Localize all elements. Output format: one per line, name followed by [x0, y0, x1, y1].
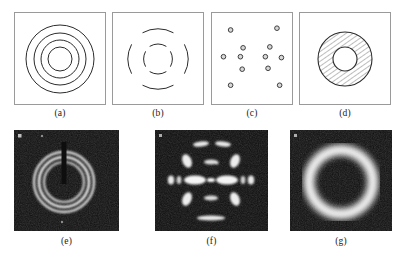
caption-g: (g): [290, 236, 392, 246]
film-speck: [61, 221, 63, 223]
beam-stop-shadow: [62, 142, 67, 184]
center-beam: [207, 178, 215, 182]
spot: [228, 83, 233, 88]
spot: [241, 45, 246, 50]
caption-a: (a): [14, 108, 106, 118]
faint-spot: [215, 161, 218, 164]
spot: [238, 54, 243, 59]
equatorial-streak-right: [216, 176, 238, 185]
panel-b: [112, 12, 204, 105]
mid-spot-right: [241, 176, 246, 184]
outer-spot-left: [168, 176, 174, 185]
caption-c: (c): [211, 108, 293, 118]
diffraction-figure: (a) (b): [0, 0, 405, 266]
panel-f-photograph: [155, 130, 268, 231]
debye-scherrer-photo: [14, 130, 119, 231]
arc-inner-west: [144, 52, 146, 67]
spot: [275, 26, 280, 31]
fiber-pattern-photo: [155, 130, 268, 231]
amorphous-halo-photo: [290, 130, 392, 231]
panel-e-photograph: [14, 130, 119, 231]
ring-outer-1: [26, 25, 94, 93]
caption-e: (e): [14, 236, 119, 246]
caption-f: (f): [155, 236, 268, 246]
corner-marker: [18, 134, 22, 138]
mid-spot-left: [177, 176, 182, 184]
arc-inner-south: [150, 72, 166, 74]
spot: [277, 83, 282, 88]
hatched-annulus-diagram: [299, 12, 391, 105]
panel-c: [211, 12, 293, 105]
outer-spot-right: [248, 176, 254, 185]
spot: [268, 45, 273, 50]
ring-2: [34, 33, 86, 85]
equatorial-streak-left: [184, 176, 206, 185]
panel-g-photograph: [290, 130, 392, 231]
spot: [240, 67, 245, 72]
panel-a: [14, 12, 106, 105]
ring-inner-4: [48, 47, 72, 71]
arc-outer-south: [143, 85, 173, 89]
annulus-hatch-fill: [299, 12, 391, 105]
caption-b: (b): [112, 108, 204, 118]
broken-arcs-diagram: [112, 12, 204, 105]
panel-d: [299, 12, 391, 105]
spot: [279, 55, 284, 60]
spot: [266, 66, 271, 71]
concentric-rings-diagram: [14, 12, 106, 105]
ring-3: [41, 40, 79, 78]
corner-marker: [159, 134, 162, 137]
caption-d: (d): [299, 108, 391, 118]
discrete-spots-diagram: [211, 12, 293, 105]
spot: [228, 28, 233, 33]
arc-inner-north: [150, 44, 166, 46]
spot: [263, 54, 268, 59]
layer-arc-lower-center: [204, 195, 218, 200]
spot: [221, 54, 226, 59]
film-speck: [41, 135, 43, 137]
arc-inner-east: [171, 52, 173, 67]
corner-marker: [294, 134, 297, 137]
meridional-arc-bottom: [197, 215, 225, 220]
arc-outer-west: [128, 45, 131, 74]
arc-outer-east: [185, 45, 188, 74]
arc-outer-north: [143, 29, 173, 33]
